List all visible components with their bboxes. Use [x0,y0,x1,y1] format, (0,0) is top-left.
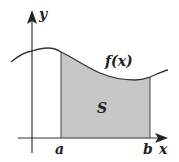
area-label: S [97,100,107,116]
lower-bound-label: a [55,141,64,157]
upper-bound-label: b [143,141,153,157]
function-label: f(x) [104,53,133,69]
y-axis-label: y [38,6,48,22]
area-under-curve-diagram: y x f(x) S a b [0,0,179,162]
x-axis-label: x [158,141,168,157]
diagram-canvas: y x f(x) S a b [0,0,179,162]
